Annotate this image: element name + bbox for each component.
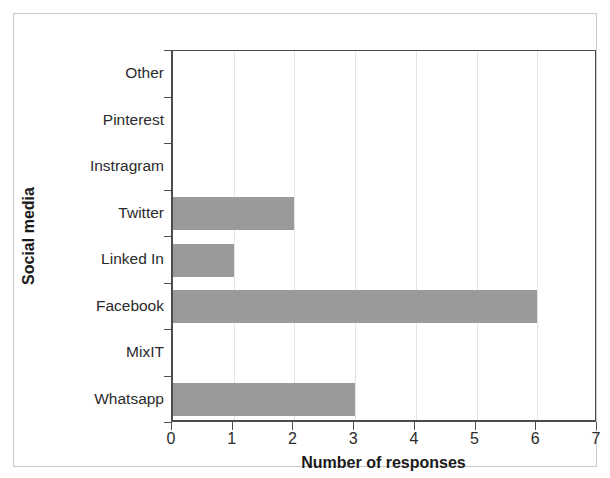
bar [173, 383, 355, 416]
bar-row [173, 377, 595, 423]
y-axis-tick-label: Instragram [24, 158, 164, 174]
y-axis-tick-label: Other [24, 65, 164, 81]
y-axis-tick-label: MixIT [24, 344, 164, 360]
x-axis-tick-label: 6 [515, 430, 555, 448]
bar-row [173, 98, 595, 145]
x-axis-title: Number of responses [171, 454, 596, 472]
bar-row [173, 144, 595, 191]
y-axis-tick-label: Linked In [24, 251, 164, 267]
y-axis-tick-label: Twitter [24, 205, 164, 221]
bar [173, 244, 234, 277]
bar [173, 197, 294, 230]
bar-row [173, 51, 595, 98]
x-axis-tick-label: 7 [576, 430, 610, 448]
x-axis-tick [414, 422, 415, 430]
bar-row [173, 191, 595, 238]
bar [173, 290, 537, 323]
y-axis-tick-labels: OtherPinterestInstragramTwitterLinked In… [22, 50, 164, 422]
x-axis-tick-label: 3 [333, 430, 373, 448]
x-axis-tick [475, 422, 476, 430]
x-axis-tick [232, 422, 233, 430]
x-axis-tick-label: 0 [151, 430, 191, 448]
x-axis-tick [171, 422, 172, 430]
x-axis-tick [596, 422, 597, 430]
y-axis-tick-label: Facebook [24, 298, 164, 314]
x-axis-tick [292, 422, 293, 430]
x-axis-tick-label: 5 [455, 430, 495, 448]
bar-row [173, 237, 595, 284]
x-axis-tick-label: 4 [394, 430, 434, 448]
chart-figure-frame: Social media OtherPinterestInstragramTwi… [13, 13, 597, 467]
plot-area [171, 50, 596, 422]
y-axis-tick-label: Pinterest [24, 112, 164, 128]
x-axis-tick-label: 2 [272, 430, 312, 448]
x-axis-tick-label: 1 [212, 430, 252, 448]
x-axis-tick [353, 422, 354, 430]
bar-row [173, 284, 595, 331]
y-axis-tick-label: Whatsapp [24, 391, 164, 407]
bar-row [173, 330, 595, 377]
x-axis-tick [535, 422, 536, 430]
